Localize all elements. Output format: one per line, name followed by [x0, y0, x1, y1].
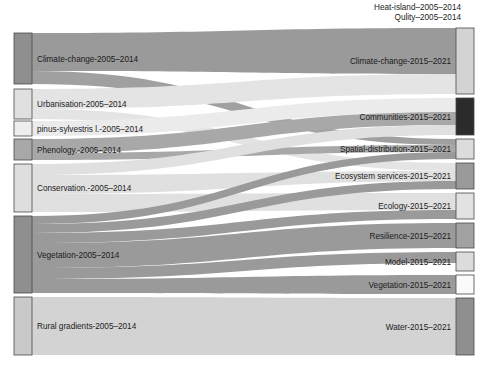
- sankey-node-left[interactable]: [14, 121, 32, 136]
- sankey-node-label: Urbanisation-2005–2014: [37, 100, 127, 109]
- sankey-node-label: Resilience-2015–2021: [370, 232, 452, 241]
- sankey-node-label: Conservation.-2005–2014: [37, 184, 132, 193]
- sankey-node-right[interactable]: [456, 223, 474, 248]
- sankey-node-label: Spatial-distribution-2015–2021: [340, 145, 452, 154]
- sankey-canvas: Climate-change-2005–2014Urbanisation-200…: [0, 0, 485, 365]
- sankey-node-right[interactable]: [456, 163, 474, 189]
- floating-label: Qulity–2005–2014: [395, 13, 462, 22]
- sankey-node-label: Rural gradients-2005–2014: [37, 322, 137, 331]
- sankey-node-left[interactable]: [14, 297, 32, 355]
- sankey-node-left[interactable]: [14, 216, 32, 293]
- sankey-node-right[interactable]: [456, 98, 474, 135]
- sankey-node-label: Phenology.-2005–2014: [37, 146, 122, 155]
- sankey-node-left[interactable]: [14, 89, 32, 119]
- sankey-node-right[interactable]: [456, 193, 474, 219]
- sankey-node-left[interactable]: [14, 33, 32, 84]
- sankey-node-right[interactable]: [456, 252, 474, 271]
- sankey-link: [32, 28, 456, 74]
- sankey-node-label: Climate-change-2015–2021: [350, 57, 451, 66]
- sankey-diagram: Climate-change-2005–2014Urbanisation-200…: [0, 0, 485, 365]
- sankey-node-label: pinus-sylvestris l.-2005–2014: [37, 125, 143, 134]
- sankey-node-right[interactable]: [456, 28, 474, 94]
- sankey-node-label: Ecosystem services-2015–2021: [335, 172, 451, 181]
- sankey-node-label: Water-2015–2021: [386, 323, 452, 332]
- sankey-node-label: Vegetation-2015–2021: [369, 281, 452, 290]
- sankey-node-right[interactable]: [456, 275, 474, 294]
- sankey-node-label: Model-2015–2021: [385, 258, 451, 267]
- sankey-floating-labels: Heat-island–2005–2014Qulity–2005–2014: [374, 3, 461, 22]
- sankey-node-right[interactable]: [456, 298, 474, 355]
- sankey-node-label: Vegetation-2005–2014: [37, 251, 120, 260]
- sankey-node-label: Ecology-2015–2021: [378, 202, 451, 211]
- floating-label: Heat-island–2005–2014: [374, 3, 461, 12]
- sankey-node-label: Communities-2015–2021: [360, 113, 452, 122]
- sankey-node-left[interactable]: [14, 139, 32, 160]
- sankey-node-left[interactable]: [14, 164, 32, 212]
- sankey-node-right[interactable]: [456, 139, 474, 159]
- sankey-node-label: Climate-change-2005–2014: [37, 55, 138, 64]
